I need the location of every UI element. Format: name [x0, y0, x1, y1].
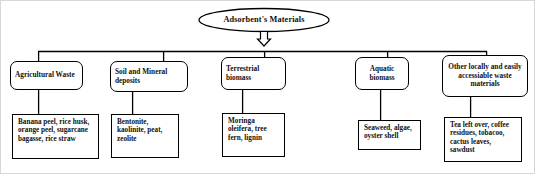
root-node-label: Adsorbent's Materials	[199, 9, 329, 31]
category-label-soil-and-mineral-deposits: Soil and Mineral deposits	[115, 68, 183, 85]
category-box-agricultural-waste[interactable]: Agricultural Waste	[10, 61, 83, 90]
example-text-other-locally-accessible-waste: Tea left over, coffee residues, tobacoo,…	[450, 121, 517, 155]
category-label-agricultural-waste: Agricultural Waste	[15, 71, 78, 80]
example-box-aquatic-biomass[interactable]: Seaweed, algae, oyster shell	[358, 120, 421, 150]
down-arrow-glyph	[258, 32, 271, 47]
category-label-aquatic-biomass: Aquatic biomass	[360, 65, 404, 82]
category-label-other-locally-accessible-waste: Other locally and easily accessiable was…	[447, 63, 523, 89]
example-box-agricultural-waste[interactable]: Banana peel, rice husk, orange peel, sug…	[12, 114, 99, 159]
category-box-aquatic-biomass[interactable]: Aquatic biomass	[355, 57, 409, 90]
root-label-text: Adsorbent's Materials	[223, 15, 304, 25]
category-box-other-locally-accessible-waste[interactable]: Other locally and easily accessiable was…	[442, 55, 528, 97]
example-text-terrestrial-biomass: Moringa oleifera, tree fern, lignin	[228, 117, 280, 142]
example-box-other-locally-accessible-waste[interactable]: Tea left over, coffee residues, tobacoo,…	[444, 117, 522, 162]
category-box-soil-and-mineral-deposits[interactable]: Soil and Mineral deposits	[110, 61, 188, 92]
category-label-terrestrial-biomass: Terrestrial biomass	[226, 65, 281, 82]
example-box-terrestrial-biomass[interactable]: Moringa oleifera, tree fern, lignin	[222, 113, 285, 157]
example-text-aquatic-biomass: Seaweed, algae, oyster shell	[364, 124, 416, 141]
adsorbent-materials-flowchart: Adsorbent's Materials Agricultural Waste…	[0, 0, 535, 174]
example-text-soil-and-mineral-deposits: Bentonite, kaolinite, peat, zeolite	[117, 118, 174, 143]
example-box-soil-and-mineral-deposits[interactable]: Bentonite, kaolinite, peat, zeolite	[111, 114, 179, 158]
category-box-terrestrial-biomass[interactable]: Terrestrial biomass	[221, 57, 286, 90]
example-text-agricultural-waste: Banana peel, rice husk, orange peel, sug…	[18, 118, 94, 143]
